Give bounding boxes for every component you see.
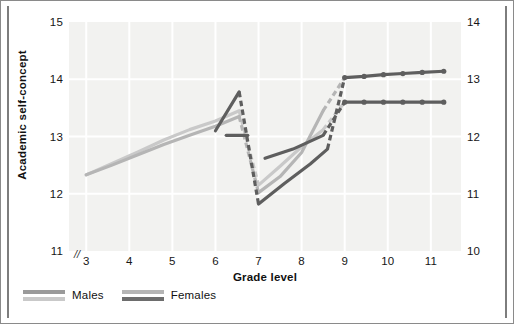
legend-swatch-line [23,290,65,294]
y-axis-right-tick-label: 11 [467,188,479,200]
series-line [345,71,444,77]
data-point-marker [400,71,405,76]
chart-canvas [69,22,461,251]
x-axis-tick-label: 5 [169,255,176,267]
x-axis-tick-label: 11 [425,255,437,267]
y-axis-left-ticks: 1514131211 [37,22,63,251]
series-line [327,78,344,150]
x-axis-tick-label: 4 [126,255,133,267]
data-point-marker [342,75,347,80]
x-axis-title: Grade level [69,271,461,283]
gridlines [69,22,461,251]
x-axis-tick-label: 3 [83,255,90,267]
data-point-marker [441,100,446,105]
y-axis-left-tick-label: 14 [50,73,63,85]
data-point-marker [361,74,366,79]
legend-swatch-line [122,290,164,294]
data-point-marker [342,100,347,105]
legend-swatch-line [122,297,164,301]
legend-swatch [122,290,164,301]
plot-area [69,22,461,251]
legend-swatch [23,290,65,301]
data-point-marker [441,69,446,74]
x-axis-tick-label: 10 [381,255,394,267]
y-axis-right-tick-label: 10 [467,245,480,257]
data-point-marker [400,100,405,105]
data-point-marker [420,70,425,75]
figure-container: Academic self-concept 1514131211 1413121… [0,0,514,324]
data-point-marker [381,100,386,105]
x-axis-tick-label: 7 [255,255,262,267]
y-axis-right-tick-label: 14 [467,16,480,28]
y-axis-left-tick-label: 11 [51,245,63,257]
legend-swatch-line [23,297,65,301]
data-point-marker [361,100,366,105]
x-axis-break-marker: // [74,248,80,260]
x-axis-tick-label: 6 [212,255,219,267]
legend-item: Males [23,289,104,301]
y-axis-right-ticks: 1413121110 [467,22,495,251]
data-point-marker [420,100,425,105]
legend-label: Males [72,289,104,301]
x-axis-tick-label: 9 [341,255,348,267]
chart-legend: MalesFemales [23,289,216,301]
y-axis-left-tick-label: 12 [50,188,63,200]
data-point-marker [381,72,386,77]
y-axis-right-tick-label: 13 [467,73,480,85]
legend-label: Females [171,289,217,301]
y-axis-right-tick-label: 12 [467,131,480,143]
x-axis-tick-label: 8 [298,255,305,267]
y-axis-left-tick-label: 15 [50,16,63,28]
y-axis-left-tick-label: 13 [50,131,63,143]
y-axis-title: Academic self-concept [16,30,28,200]
legend-item: Females [122,289,217,301]
